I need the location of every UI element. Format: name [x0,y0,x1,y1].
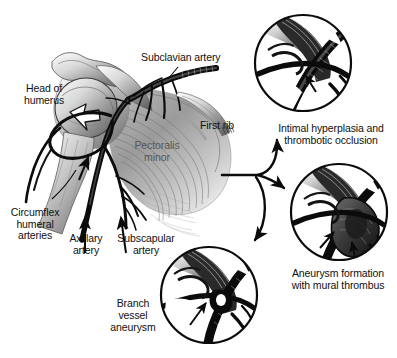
label-subclavian-artery: Subclavian artery [141,52,220,64]
caption-intimal-hyperplasia: Intimal hyperplasia and thrombotic occlu… [268,122,394,146]
inset-intimal-hyperplasia [255,15,352,111]
label-first-rib: First rib [200,120,234,132]
medical-illustration-figure: Head of humerus Subclavian artery First … [0,0,397,358]
label-circumflex-humeral-arteries: Circumflex humeral arteries [2,207,68,242]
caption-aneurysm-mural-thrombus: Aneurysm formation with mural thrombus [282,267,394,291]
caption-branch-vessel-aneurysm: Branch vessel aneurysm [104,297,162,333]
label-subscapular-artery: Subscapular artery [110,233,182,256]
inset-branch-vessel-aneurysm [161,247,257,343]
label-pectoralis-minor: Pectoralis minor [122,140,192,163]
label-head-of-humerus: Head of humerus [8,83,80,106]
label-axillary-artery: Axillary artery [60,233,112,256]
